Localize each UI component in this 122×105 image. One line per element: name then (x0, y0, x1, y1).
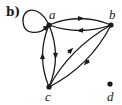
edge-b-c (49, 25, 111, 87)
node-label-d: d (107, 90, 114, 103)
node-a (46, 22, 51, 27)
panel-label: b) (6, 5, 20, 19)
directed-graph-figure: b) (0, 0, 122, 105)
node-label-a: a (49, 8, 56, 21)
node-label-b: b (109, 8, 116, 21)
edge-c-b (49, 25, 111, 87)
node-d (107, 81, 112, 86)
edge-b-a (49, 25, 111, 31)
edge-c-a (43, 25, 50, 87)
node-b (108, 22, 113, 27)
node-label-c: c (45, 90, 51, 103)
edge-a-b (49, 19, 111, 26)
